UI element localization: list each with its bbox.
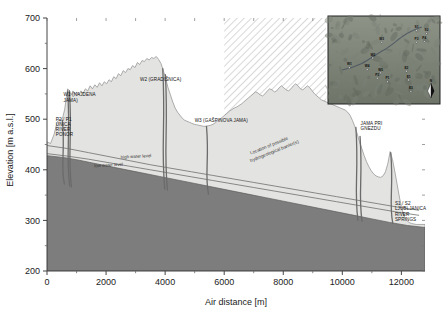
y-tick-label: 600 [25, 64, 40, 74]
site-annotation-text: JAMA) [64, 98, 79, 103]
inset-map-point-label: E2 [404, 66, 408, 70]
x-tick-label: 8000 [273, 277, 293, 287]
inset-map-point [416, 30, 418, 32]
figure-container: high water levellow water level Location… [0, 0, 448, 328]
site-annotation-JPG: JAMA PRIGNEZDU [361, 121, 383, 131]
inset-map-point-label: P4 [422, 36, 426, 40]
y-tick-label: 200 [25, 266, 40, 276]
inset-map-point-label: P3 [415, 37, 419, 41]
inset-map-point-label: P2 [375, 73, 379, 77]
inset-map-point-label: W2 [370, 53, 375, 57]
inset-map-point [372, 57, 374, 59]
inset-map-point [376, 77, 378, 79]
site-annotation-text: SPRINGS [395, 217, 416, 222]
inset-map-point-label: E1 [407, 75, 411, 79]
x-axis-label: Air distance [m] [205, 297, 267, 307]
site-annotation-text: W3 (GAŠPINOVA JAMA) [195, 117, 248, 123]
inset-map-point [380, 72, 382, 74]
x-tick-label: 2000 [96, 277, 116, 287]
site-annotation-W2: W2 (GRADIŠNICA) [140, 76, 182, 82]
site-annotation-W3: W3 (GAŠPINOVA JAMA) [195, 117, 248, 123]
inset-map-point [416, 41, 418, 43]
y-tick-label: 300 [25, 216, 40, 226]
inset-map-point [408, 79, 410, 81]
y-tick-label: 400 [25, 165, 40, 175]
y-tick-label: 500 [25, 114, 40, 124]
inset-map-point [348, 67, 350, 69]
inset-map-point-label: S1 [415, 25, 419, 29]
site-annotation-text: W2 (GRADIŠNICA) [140, 76, 182, 82]
site-annotation-text: PONOR [56, 132, 74, 137]
inset-map-point [386, 81, 388, 83]
cross-section-chart: high water levellow water level Location… [0, 0, 448, 328]
x-tick-label: 0 [44, 277, 49, 287]
inset-map-point [410, 91, 412, 93]
x-tick-label: 4000 [155, 277, 175, 287]
inset-map-point [423, 40, 425, 42]
x-tick-label: 6000 [214, 277, 234, 287]
inset-map-point [406, 70, 408, 72]
site-annotation-text: GNEZDU [361, 126, 381, 131]
inset-map-point [381, 41, 383, 43]
y-axis-label: Elevation [m a.s.l.] [5, 113, 15, 187]
inset-map-point [426, 32, 428, 34]
x-tick-label: 10000 [330, 277, 355, 287]
inset-map-point-label: S2 [425, 28, 429, 32]
inset-map-point [366, 69, 368, 71]
inset-map-point-label: W1 [347, 62, 352, 66]
inset-map-point-label: W3 [379, 37, 384, 41]
y-tick-label: 700 [25, 13, 40, 23]
inset-map-point-label: W5 [378, 68, 383, 72]
inset-map-point-label: E3 [409, 86, 413, 90]
inset-map: W1W2W3W4W5P2P1E2E1E3S1S2P3P4N [323, 13, 442, 107]
inset-map-point-label: W4 [365, 64, 370, 68]
inset-map-point-label: P1 [385, 76, 389, 80]
x-tick-label: 12000 [389, 277, 414, 287]
